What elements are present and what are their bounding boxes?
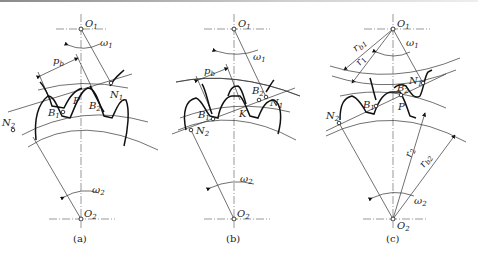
label-n2: N2 <box>195 125 210 138</box>
point-o1 <box>232 27 236 31</box>
label-n1: N1 <box>109 89 123 102</box>
caption-a: (a) <box>73 233 87 244</box>
label-b1: B1 <box>362 99 375 112</box>
label-o2: O2 <box>397 220 410 233</box>
panel-c: O1 O2 ω1 ω2 rb1 r1 r2 rb2 N1 N2 B1 B2 P … <box>325 14 466 244</box>
rb1-radius <box>344 29 393 70</box>
r1-radius <box>352 29 393 83</box>
o2-n2-line <box>191 130 234 219</box>
omega1-arc <box>68 44 100 48</box>
point-b2 <box>257 98 261 102</box>
label-n1: N1 <box>408 75 422 88</box>
caption-b: (b) <box>226 233 240 244</box>
point-n1 <box>264 95 268 99</box>
point-b1 <box>211 117 215 121</box>
o2-n2-line <box>339 123 393 219</box>
label-omega2: ω2 <box>92 184 105 197</box>
point-o2 <box>79 217 83 221</box>
gear2-base-circle <box>22 115 148 135</box>
label-omega2: ω2 <box>414 195 427 208</box>
gear-meshing-figure: O1 O2 ω1 ω2 pb N1 N2 B1 B2 P (a) <box>0 0 478 261</box>
label-k: K <box>238 108 247 119</box>
point-o1 <box>79 27 83 31</box>
point-n1 <box>109 81 113 85</box>
gear2-base-circle <box>326 120 466 142</box>
point-o2 <box>232 217 236 221</box>
label-p: P <box>72 95 80 106</box>
gear2-root-circle <box>28 130 158 150</box>
label-rb1: rb1 <box>350 36 369 55</box>
label-b1: B1 <box>197 109 210 122</box>
point-o1 <box>391 27 395 31</box>
omega1-arc <box>216 50 258 54</box>
label-omega1: ω1 <box>253 51 266 64</box>
point-b1 <box>61 110 65 114</box>
label-omega1: ω1 <box>100 37 113 50</box>
label-pb: pb <box>204 65 215 78</box>
label-p: P <box>397 101 405 112</box>
panel-a: O1 O2 ω1 ω2 pb N1 N2 B1 B2 P (a) <box>1 14 158 244</box>
label-n2: N2 <box>1 117 16 130</box>
panel-b: O1 O2 ω1 ω2 pb N1 N2 B1 B2 K (b) <box>172 14 300 244</box>
point-n2 <box>189 128 193 132</box>
gear1-pitch-circle <box>332 70 456 85</box>
label-omega2: ω2 <box>240 173 253 186</box>
label-b2: B2 <box>251 85 264 98</box>
label-omega1: ω1 <box>406 37 419 50</box>
label-r2: r2 <box>402 146 417 159</box>
caption-c: (c) <box>386 233 400 244</box>
label-n2: N2 <box>325 110 340 123</box>
o2-n2-line <box>33 137 81 219</box>
point-o2 <box>391 217 395 221</box>
label-rb2: rb2 <box>417 151 436 170</box>
gear1-base-circle <box>330 58 460 74</box>
pb-extension-line <box>76 54 92 88</box>
gear2-base-circle <box>180 106 290 118</box>
line-of-action <box>172 88 295 134</box>
label-pb: pb <box>53 55 64 68</box>
point-b2 <box>399 93 403 97</box>
label-b2: B2 <box>396 82 409 95</box>
